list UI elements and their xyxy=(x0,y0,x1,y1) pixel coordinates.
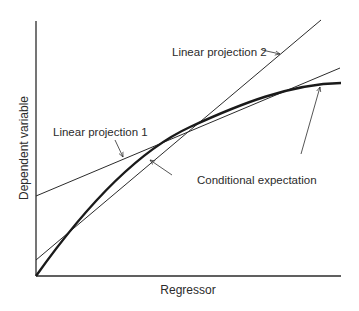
conditional-expectation-label: Conditional expectation xyxy=(197,174,317,186)
linear-projection-1-arrow xyxy=(115,140,123,157)
linear-projection-2-label: Linear projection 2 xyxy=(172,46,267,58)
y-axis-label: Dependent variable xyxy=(17,96,31,200)
x-axis-label: Regressor xyxy=(160,283,215,297)
diagram-canvas: Linear projection 1 Linear projection 2 … xyxy=(0,0,359,311)
conditional-expectation-arrow-right xyxy=(301,87,320,154)
conditional-expectation-arrow-left xyxy=(150,160,172,175)
linear-projection-1-label: Linear projection 1 xyxy=(53,126,148,138)
